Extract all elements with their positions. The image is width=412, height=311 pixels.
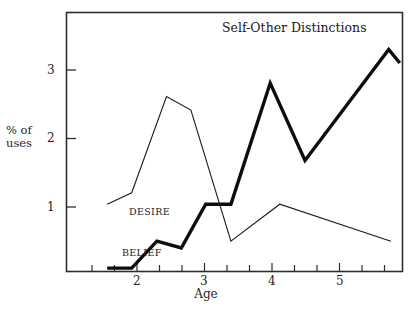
series-label-desire: DESIRE bbox=[129, 206, 170, 217]
y-tick-label-2: 2 bbox=[47, 131, 55, 145]
x-tick-label-5: 5 bbox=[336, 274, 344, 288]
x-tick-label-3: 3 bbox=[200, 274, 208, 288]
y-axis-label-line2: uses bbox=[6, 136, 32, 150]
line-chart-canvas bbox=[0, 0, 412, 311]
x-tick-label-2: 2 bbox=[133, 274, 141, 288]
series-label-belief: BELIEF bbox=[122, 247, 162, 258]
y-tick-label-1: 1 bbox=[47, 200, 55, 214]
plot-frame bbox=[67, 13, 403, 272]
chart-title: Self-Other Distinctions bbox=[222, 20, 367, 35]
x-tick-label-4: 4 bbox=[268, 274, 276, 288]
y-tick-label-3: 3 bbox=[47, 63, 55, 77]
y-axis-label-line1: % of bbox=[6, 123, 32, 137]
y-axis-label: % ofuses bbox=[6, 124, 32, 150]
chart-figure: 1 2 3 2 3 4 5 % ofuses Age Self-Other Di… bbox=[0, 0, 412, 311]
x-axis-label: Age bbox=[0, 288, 412, 302]
